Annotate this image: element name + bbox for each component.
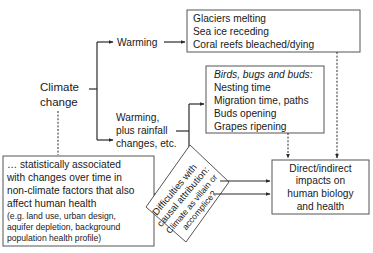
branch-warming-rainfall: Warming, plus rainfall changes, etc. [116, 112, 177, 149]
root-line1: Climate [40, 81, 79, 93]
nonclimate-subline: (e.g. land use, urban design, [7, 211, 116, 221]
biological-item: Buds opening [214, 108, 277, 119]
physical-item: Sea ice receding [193, 26, 269, 37]
branch-rain-line3: changes, etc. [116, 138, 177, 149]
nonclimate-line: affect human health [7, 198, 96, 209]
nonclimate-line: with changes over time in [6, 172, 122, 183]
box-nonclimate-factors: … statistically associated with changes … [3, 156, 154, 246]
nonclimate-line: non-climate factors that also [7, 185, 135, 196]
branch-warming-label: Warming [117, 37, 158, 48]
impacts-line: and health [297, 201, 345, 212]
branch-rain-line2: plus rainfall [116, 125, 168, 136]
connector-root-branches [89, 42, 113, 140]
impacts-line: impacts on [296, 175, 345, 186]
physical-item: Glaciers melting [193, 13, 266, 24]
box-biological-effects: Birds, bugs and buds: Nesting time Migra… [206, 66, 324, 133]
biological-title: Birds, bugs and buds: [214, 69, 313, 80]
box-human-impacts: Direct/indirect impacts on human biology… [272, 160, 369, 214]
physical-item: Coral reefs bleached/dying [193, 39, 315, 50]
biological-item: Grapes ripening [214, 121, 287, 132]
nonclimate-line: … statistically associated [7, 159, 121, 170]
nonclimate-subline: population health profile) [7, 233, 101, 243]
impacts-line: human biology [287, 188, 354, 199]
diagram-canvas: Climate change Warming Glaciers melting … [0, 0, 373, 253]
nonclimate-subline: aquifer depletion, background [7, 222, 120, 232]
root-line2: change [40, 96, 78, 108]
biological-item: Migration time, paths [214, 95, 309, 106]
node-climate-change: Climate change [40, 81, 79, 108]
impacts-line: Direct/indirect [289, 163, 351, 174]
biological-item: Nesting time [214, 82, 271, 93]
box-physical-effects: Glaciers melting Sea ice receding Coral … [187, 10, 360, 52]
branch-rain-line1: Warming, [116, 112, 159, 123]
